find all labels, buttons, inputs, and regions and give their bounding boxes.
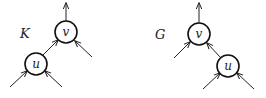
- node-k-u: u: [25, 53, 47, 75]
- diagram-canvas: K v u G v u: [0, 0, 266, 98]
- edge-g-in-u-left: [203, 73, 220, 89]
- node-g-u-label: u: [224, 59, 232, 73]
- edge-k-in-v: [75, 41, 92, 57]
- node-g-v-label: v: [196, 27, 203, 41]
- edge-g-u-to-v: [207, 43, 221, 58]
- graph-g: G v u: [155, 3, 254, 89]
- node-g-v: v: [188, 23, 210, 45]
- node-k-u-label: u: [32, 57, 40, 71]
- graph-k: K v u: [10, 3, 92, 87]
- edge-k-in-u-right: [45, 71, 62, 87]
- graph-g-label: G: [155, 27, 165, 42]
- graph-k-label: K: [19, 26, 31, 41]
- edge-k-u-to-v: [43, 40, 58, 55]
- node-k-v-label: v: [63, 25, 70, 39]
- edge-k-in-u-left: [10, 71, 27, 87]
- node-k-v: v: [55, 21, 77, 43]
- edge-g-in-v: [174, 42, 190, 58]
- node-g-u: u: [217, 55, 239, 77]
- edge-g-in-u-right: [237, 73, 254, 89]
